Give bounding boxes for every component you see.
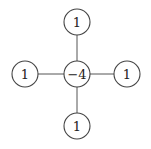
node-bottom-label: 1 [73,119,81,134]
node-center-label: −4 [67,67,86,82]
node-right: 1 [114,61,140,87]
node-top-label: 1 [73,15,81,30]
node-left-label: 1 [21,67,29,82]
node-center: −4 [64,61,90,87]
node-right-label: 1 [123,67,131,82]
node-top: 1 [64,9,90,35]
node-bottom: 1 [64,113,90,139]
node-left: 1 [12,61,38,87]
stencil-diagram: 1 1 −4 1 1 [0,0,151,149]
